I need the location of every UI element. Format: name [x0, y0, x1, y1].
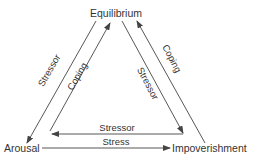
- node-impoverishment: Impoverishment: [172, 142, 247, 154]
- stress-diagram: Equilibrium Arousal Impoverishment Stres…: [0, 0, 256, 162]
- edge-label-impoverishment-to-arousal: Stressor: [99, 122, 134, 133]
- edge-label-arousal-to-equilibrium: Coping: [65, 60, 90, 92]
- node-equilibrium: Equilibrium: [90, 7, 142, 19]
- edge-label-equilibrium-to-arousal: Stressor: [35, 52, 62, 88]
- edge-label-arousal-to-impoverishment: Stress: [103, 136, 130, 147]
- edge-label-equilibrium-to-impoverishment: Stressor: [135, 65, 161, 101]
- edge-equilibrium-to-impoverishment: [122, 21, 183, 133]
- node-arousal: Arousal: [4, 142, 40, 154]
